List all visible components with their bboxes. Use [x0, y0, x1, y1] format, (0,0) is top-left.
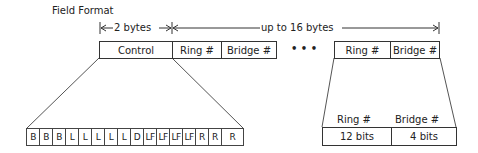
two-bytes-label: 2 bytes — [114, 22, 151, 34]
bit-cell: LF — [182, 128, 196, 146]
bit-cell: B — [39, 128, 53, 146]
bridge-bits-cell: 4 bits — [391, 127, 457, 146]
bit-cell: L — [65, 128, 79, 146]
bridge-field-last: Bridge # — [390, 41, 440, 59]
ring-field-last: Ring # — [334, 41, 391, 59]
ellipsis: • • • — [291, 43, 317, 55]
bit-cell: L — [91, 128, 105, 146]
control-field: Control — [99, 41, 173, 59]
bit-cell: LF — [169, 128, 183, 146]
up-to-16-bytes-label: up to 16 bytes — [261, 22, 334, 34]
ring-bits-cell: 12 bits — [322, 127, 392, 146]
ring-field: Ring # — [172, 41, 222, 59]
ring-detail-header: Ring # — [337, 114, 371, 126]
bridge-detail-header: Bridge # — [395, 114, 439, 126]
bit-cell: D — [130, 128, 144, 146]
bit-cell: R — [195, 128, 209, 146]
bit-cell: B — [52, 128, 66, 146]
bridge-field: Bridge # — [221, 41, 277, 59]
bit-cell: L — [104, 128, 118, 146]
bit-cell: LF — [156, 128, 170, 146]
bit-cell: LF — [143, 128, 157, 146]
figure-title: Field Format — [52, 5, 114, 17]
bit-cell: L — [117, 128, 131, 146]
bit-cell: R — [221, 128, 244, 146]
bit-cell: R — [208, 128, 222, 146]
bit-cell: B — [26, 128, 40, 146]
bit-cell: L — [78, 128, 92, 146]
